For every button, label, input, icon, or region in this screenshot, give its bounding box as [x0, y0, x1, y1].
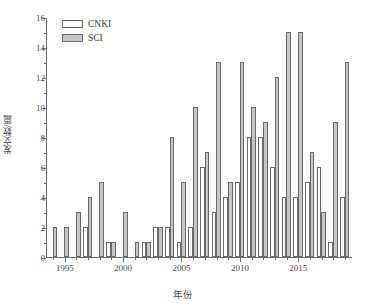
bar	[270, 167, 275, 257]
bar	[345, 62, 350, 257]
publication-count-bar-chart: 发文数/篇 0246810121416 19952000200520102015…	[0, 0, 365, 308]
bar	[170, 137, 175, 257]
bar	[53, 227, 58, 257]
y-tick-label: 2	[5, 223, 45, 233]
x-tick-minor	[287, 258, 288, 260]
bar	[181, 182, 186, 257]
bar	[135, 242, 140, 257]
bar	[177, 242, 182, 257]
bar	[321, 212, 326, 257]
bar	[310, 152, 315, 257]
bar	[340, 197, 345, 257]
bar	[240, 62, 245, 257]
bar	[286, 32, 291, 257]
legend-label: CNKI	[88, 19, 111, 29]
bar	[328, 242, 333, 257]
bar	[188, 227, 193, 257]
x-tick-mark	[123, 258, 124, 262]
x-tick-minor	[88, 258, 89, 260]
y-tick-label: 14	[5, 43, 45, 53]
legend-item-sci: SCI	[62, 31, 111, 44]
x-tick-minor	[205, 258, 206, 260]
bar	[142, 242, 147, 257]
y-tick-minor	[44, 63, 46, 64]
bar	[153, 227, 158, 257]
x-tick-minor	[193, 258, 194, 260]
bar	[111, 242, 116, 257]
x-tick-mark	[65, 258, 66, 262]
bar	[64, 227, 69, 257]
x-tick-mark	[240, 258, 241, 262]
x-tick-minor	[310, 258, 311, 260]
plot-area: 0246810121416 19952000200520102015	[46, 18, 352, 258]
x-tick-minor	[345, 258, 346, 260]
x-tick-minor	[158, 258, 159, 260]
bar	[282, 197, 287, 257]
x-tick-minor	[111, 258, 112, 260]
x-tick-label: 2005	[161, 263, 201, 273]
bar	[106, 242, 111, 257]
bar	[83, 227, 88, 257]
bar	[333, 122, 338, 257]
y-tick-label: 4	[5, 193, 45, 203]
bar	[165, 227, 170, 257]
x-tick-minor	[252, 258, 253, 260]
x-tick-label: 2000	[103, 263, 143, 273]
x-tick-minor	[146, 258, 147, 260]
x-tick-minor	[76, 258, 77, 260]
x-tick-minor	[135, 258, 136, 260]
legend-label: SCI	[88, 33, 103, 43]
x-tick-minor	[263, 258, 264, 260]
bar	[76, 212, 81, 257]
bar	[146, 242, 151, 257]
x-tick-mark	[298, 258, 299, 262]
x-tick-minor	[275, 258, 276, 260]
bar	[88, 197, 93, 257]
x-tick-label: 2010	[220, 263, 260, 273]
y-tick-minor	[44, 93, 46, 94]
y-tick-minor	[44, 183, 46, 184]
legend-item-cnki: CNKI	[62, 17, 111, 30]
bar	[223, 197, 228, 257]
y-tick-label: 8	[5, 133, 45, 143]
legend-swatch-sci	[62, 34, 83, 42]
x-tick-minor	[333, 258, 334, 260]
x-tick-minor	[217, 258, 218, 260]
y-tick-minor	[44, 243, 46, 244]
bar	[212, 212, 217, 257]
bar	[216, 62, 221, 257]
x-tick-minor	[322, 258, 323, 260]
x-tick-minor	[53, 258, 54, 260]
x-tick-minor	[170, 258, 171, 260]
bar	[317, 167, 322, 257]
y-tick-label: 0	[5, 253, 45, 263]
y-tick-minor	[44, 153, 46, 154]
x-axis-label: 年份	[0, 287, 365, 301]
y-axis-line	[46, 18, 47, 258]
x-tick-mark	[181, 258, 182, 262]
bar	[235, 182, 240, 257]
x-axis-line	[46, 257, 352, 258]
bar	[158, 227, 163, 257]
bar	[275, 77, 280, 257]
bar	[200, 167, 205, 257]
chart-legend: CNKISCI	[62, 17, 111, 45]
y-tick-minor	[44, 213, 46, 214]
y-tick-label: 10	[5, 103, 45, 113]
y-tick-label: 16	[5, 13, 45, 23]
x-tick-label: 1995	[45, 263, 85, 273]
x-tick-minor	[100, 258, 101, 260]
bar	[298, 32, 303, 257]
bar	[228, 182, 233, 257]
bar	[305, 182, 310, 257]
x-tick-minor	[228, 258, 229, 260]
legend-swatch-cnki	[62, 20, 83, 28]
y-tick-label: 12	[5, 73, 45, 83]
bar	[123, 212, 128, 257]
bar	[263, 122, 268, 257]
x-tick-label: 2015	[278, 263, 318, 273]
bar	[99, 182, 104, 257]
bar	[251, 107, 256, 257]
bar	[193, 107, 198, 257]
bar	[247, 137, 252, 257]
